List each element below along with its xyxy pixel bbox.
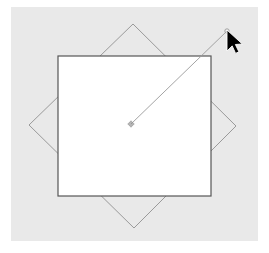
app-root <box>0 0 269 253</box>
vector-canvas-svg[interactable] <box>11 7 258 241</box>
drawing-canvas[interactable] <box>11 7 258 241</box>
rectangle-shape[interactable] <box>58 56 211 196</box>
